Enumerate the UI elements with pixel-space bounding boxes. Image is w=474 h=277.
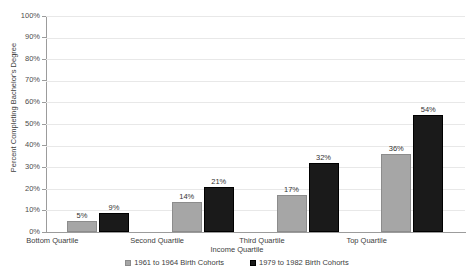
x-category-label: Top Quartile [307,236,427,245]
bar-series0[interactable] [381,154,411,232]
bar-group-top-quartile: 36% 54% [360,16,465,232]
bar-value-label: 17% [272,185,312,194]
bar-value-label: 36% [376,144,416,153]
legend-label: 1979 to 1982 Birth Cohorts [259,258,349,267]
bar-value-label: 21% [199,177,239,186]
bar-group-third-quartile: 17% 32% [256,16,361,232]
bar-value-label: 54% [408,105,448,114]
legend-item-series0[interactable]: 1961 to 1964 Birth Cohorts [125,258,224,267]
bar-series0[interactable] [172,202,202,232]
bar-series1[interactable] [309,163,339,232]
x-category-label: Bottom Quartile [0,236,112,245]
x-axis-line [46,232,466,233]
x-category-label: Second Quartile [97,236,217,245]
legend-label: 1961 to 1964 Birth Cohorts [134,258,224,267]
chart-legend: 1961 to 1964 Birth Cohorts 1979 to 1982 … [0,258,474,267]
bar-value-label: 5% [62,211,102,220]
bar-value-label: 32% [304,153,344,162]
legend-swatch-icon [250,260,256,266]
bar-series1[interactable] [99,213,129,232]
y-axis-title: Percent Completing Bachelor's Degree [9,0,18,218]
legend-item-series1[interactable]: 1979 to 1982 Birth Cohorts [250,258,349,267]
legend-swatch-icon [125,260,131,266]
x-axis-title: Income Quartile [0,245,474,254]
bar-value-label: 9% [94,203,134,212]
bar-value-label: 14% [167,192,207,201]
bar-group-second-quartile: 14% 21% [151,16,256,232]
bar-group-bottom-quartile: 5% 9% [46,16,151,232]
bar-series0[interactable] [67,221,97,232]
plot-area: 5% 9% 14% 21% 17% 32% 36% 54% [46,16,465,232]
bar-series1[interactable] [204,187,234,232]
bar-series0[interactable] [277,195,307,232]
x-category-label: Third Quartile [202,236,322,245]
y-tick-label: 0% [4,228,40,236]
bar-chart: 100% 90% 80% 70% 60% 50% 40% 30% 20% 10%… [0,0,474,277]
bar-series1[interactable] [413,115,443,232]
